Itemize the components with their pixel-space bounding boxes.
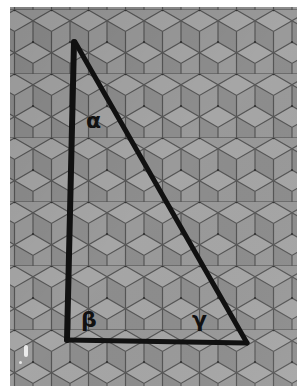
light-glare — [24, 345, 28, 357]
light-glare-dot — [19, 361, 22, 364]
tiled-surface-photo: α β γ — [10, 7, 297, 386]
angle-label-beta: β — [81, 307, 97, 332]
angle-label-gamma: γ — [192, 307, 207, 332]
triangle-side-base — [67, 340, 247, 343]
triangle-diagram: α β γ — [10, 7, 297, 386]
angle-label-alpha: α — [86, 108, 101, 133]
